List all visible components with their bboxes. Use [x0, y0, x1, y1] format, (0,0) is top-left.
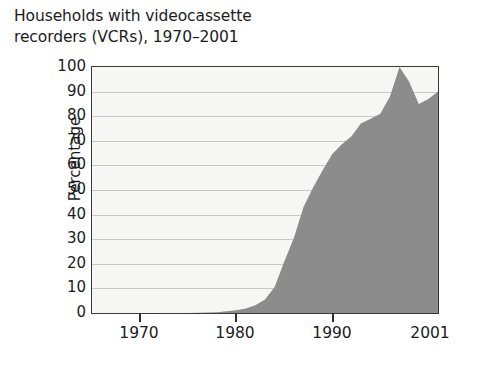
y-tick-label-20: 20: [50, 256, 86, 271]
y-tick-label-30: 30: [50, 231, 86, 246]
x-tick-mark-1970: [139, 313, 141, 322]
y-tick-label-10: 10: [50, 280, 86, 295]
area-fill-polygon: [92, 67, 438, 313]
y-tick-label-0: 0: [50, 305, 86, 320]
plot-area: [91, 66, 439, 314]
area-series-vcr-penetration: [92, 67, 438, 313]
x-tick-label-1970: 1970: [99, 324, 179, 342]
y-axis-tick-labels: 100 90 80 70 60 50 40 30 20 10 0 Percent…: [46, 0, 86, 376]
x-tick-label-1980: 1980: [195, 324, 275, 342]
y-axis-title: Percentage: [66, 89, 84, 229]
x-tick-mark-1980: [235, 313, 237, 322]
x-tick-mark-1990: [332, 313, 334, 322]
y-tick-label-100: 100: [50, 59, 86, 74]
x-tick-label-2001: 2001: [390, 324, 470, 342]
vcr-households-figure: Households with videocassette recorders …: [0, 0, 479, 376]
x-tick-label-1990: 1990: [292, 324, 372, 342]
